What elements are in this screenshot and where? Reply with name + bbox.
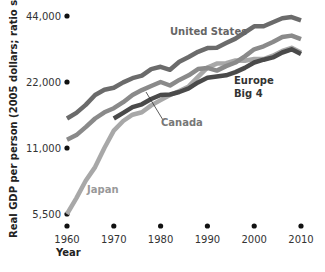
label-canada: Canada [161,117,203,128]
x-tick-label: 1990 [195,234,220,245]
label-europe: Europe [234,75,274,86]
y-tick-label: 5,500 [32,209,61,220]
x-axis: 196019701980199020002010 [54,223,313,245]
x-tick-dot [111,223,116,228]
x-tick-dot [298,223,303,228]
x-tick-label: 2010 [288,234,313,245]
label-japan: Japan [86,184,119,195]
y-tick-dot [64,79,69,84]
y-axis: 5,50011,00022,00044,000 [26,11,70,220]
x-tick-label: 1960 [54,234,79,245]
x-tick-dot [252,223,257,228]
gdp-line-chart: 5,50011,00022,00044,000 1960197019801990… [0,0,325,272]
y-tick-label: 22,000 [26,77,61,88]
x-tick-dot [64,223,69,228]
x-tick-label: 1980 [148,234,173,245]
y-tick-label: 44,000 [26,11,61,22]
x-tick-label: 2000 [241,234,266,245]
x-axis-title: Year [55,247,81,258]
y-tick-dot [64,13,69,18]
y-tick-label: 11,000 [26,143,61,154]
x-tick-dot [158,223,163,228]
x-tick-dot [205,223,210,228]
label-united-states: United States [170,26,247,37]
x-tick-label: 1970 [101,234,126,245]
y-tick-dot [64,145,69,150]
label-big4: Big 4 [234,88,263,99]
y-axis-title: Real GDP per person (2005 dollars; ratio… [8,0,19,238]
